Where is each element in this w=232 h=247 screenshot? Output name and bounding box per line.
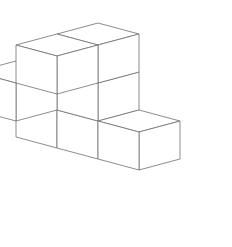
cube-drawing-canvas: [0, 0, 232, 247]
cube-right: [98, 110, 180, 170]
isometric-cube-figure: [0, 0, 232, 247]
cube-left-upper: [16, 34, 98, 94]
